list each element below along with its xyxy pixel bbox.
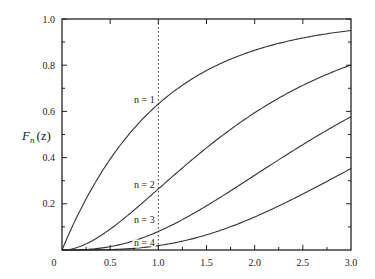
y-tick-label: 1.0 xyxy=(43,14,56,25)
x-tick-label: 2.0 xyxy=(248,257,261,268)
axis-ticks xyxy=(62,19,351,250)
curve-n1 xyxy=(62,31,351,251)
curve-n4 xyxy=(62,169,351,250)
x-axis-tick-labels: 0.51.01.52.02.53.0 xyxy=(104,257,357,268)
origin-label: 0 xyxy=(52,257,57,268)
curve-n3 xyxy=(62,117,351,250)
y-tick-label: 0.4 xyxy=(43,152,56,163)
curve-label: n = 1 xyxy=(134,94,155,105)
x-tick-label: 0.5 xyxy=(104,257,117,268)
x-tick-label: 3.0 xyxy=(345,257,358,268)
curve-label: n = 2 xyxy=(134,179,155,190)
x-tick-label: 1.5 xyxy=(200,257,213,268)
y-axis-tick-labels: 0.20.40.60.81.0 xyxy=(43,14,56,210)
x-tick-label: 1.0 xyxy=(152,257,165,268)
x-tick-label: 2.5 xyxy=(297,257,310,268)
y-tick-label: 0.6 xyxy=(43,106,56,117)
chart: 0.51.01.52.02.53.0 0.20.40.60.81.0 0 Fn(… xyxy=(0,0,375,279)
y-tick-label: 0.8 xyxy=(43,60,56,71)
plot-frame xyxy=(62,19,351,250)
curve-label: n = 4 xyxy=(134,237,155,248)
y-tick-label: 0.2 xyxy=(43,198,56,209)
curve-n2 xyxy=(62,65,351,250)
curves xyxy=(62,31,351,251)
curve-label: n = 3 xyxy=(134,214,155,225)
y-axis-label: Fn(z) xyxy=(21,128,51,145)
